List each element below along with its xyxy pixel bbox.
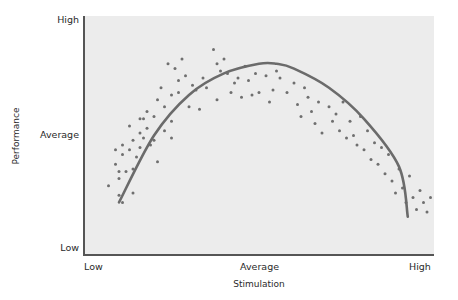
data-point [293,81,296,84]
x-tick-low: Low [84,261,103,272]
data-point [188,105,191,108]
data-point [153,115,156,118]
data-point [212,48,215,51]
data-point [272,89,275,92]
data-point [219,70,222,73]
y-tick-low: Low [60,242,79,253]
data-point [373,141,376,144]
data-point [265,74,268,77]
data-point [240,96,243,99]
data-point [317,101,320,104]
data-point [223,58,226,61]
data-point [191,84,194,87]
data-point [156,98,159,101]
data-point [331,120,334,123]
data-point [415,208,418,211]
data-point [146,127,149,130]
x-axis-line [83,254,434,256]
data-point [202,77,205,80]
data-point [321,132,324,135]
data-point [216,62,219,65]
data-point [121,201,124,204]
data-point [184,74,187,77]
data-point [408,175,411,178]
data-point [335,113,338,116]
data-point [307,96,310,99]
data-point [163,129,166,132]
data-point [177,79,180,82]
y-tick-high: High [57,14,79,25]
data-point [412,196,415,199]
data-point [170,120,173,123]
data-point [107,184,110,187]
data-point [170,136,173,139]
data-point [114,148,117,151]
data-point [258,91,261,94]
data-point [233,81,236,84]
data-point [247,79,250,82]
data-point [251,93,254,96]
data-point [121,153,124,156]
fit-curve [119,63,408,217]
data-point [163,105,166,108]
data-point [328,105,331,108]
x-tick-high: High [409,261,431,272]
data-point [139,132,142,135]
data-point [121,144,124,147]
data-point [118,194,121,197]
x-tick-average: Average [240,261,279,272]
data-point [394,191,397,194]
data-point [300,115,303,118]
data-point [125,170,128,173]
data-point [303,86,306,89]
data-point [363,148,366,151]
data-point [142,117,145,120]
data-point [387,153,390,156]
data-point [146,110,149,113]
data-point [279,77,282,80]
data-point [216,98,219,101]
data-point [356,144,359,147]
data-point [377,163,380,166]
x-axis-title: Stimulation [233,279,284,289]
y-tick-average: Average [40,129,79,140]
data-point [338,129,341,132]
stimulation-performance-chart: High Average Low Low Average High Perfor… [0,0,458,300]
data-point [254,72,257,75]
data-point [170,93,173,96]
data-point [310,110,313,113]
data-point [114,163,117,166]
data-point [132,191,135,194]
data-point [118,177,121,180]
data-point [422,201,425,204]
data-point [345,136,348,139]
data-point [429,196,432,199]
data-point [156,160,159,163]
data-point [275,70,278,73]
y-axis-title: Performance [11,107,21,164]
data-point [174,67,177,70]
data-point [177,91,180,94]
data-point [380,146,383,149]
data-point [314,122,317,125]
data-point [139,146,142,149]
data-point [198,108,201,111]
data-point [160,86,163,89]
data-point [167,62,170,65]
data-point [391,179,394,182]
data-point [352,134,355,137]
data-point [132,139,135,142]
data-point [349,120,352,123]
data-point [118,170,121,173]
data-point [135,156,138,159]
data-point [370,158,373,161]
data-point [205,86,208,89]
data-point [419,189,422,192]
y-axis-line [83,16,85,256]
data-point [181,58,184,61]
data-point [230,91,233,94]
data-point [268,101,271,104]
data-point [286,91,289,94]
data-point [128,124,131,127]
data-point [366,129,369,132]
